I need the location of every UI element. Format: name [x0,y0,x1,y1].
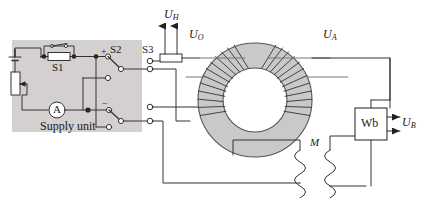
primary-voltage-label: UO [189,28,204,42]
hall-probe-block [160,54,182,62]
s1-resistor [48,53,70,61]
switch-s1-label: S1 [52,62,64,73]
secondary-voltage-label: UA [323,28,337,42]
hall-voltage-label: UH [164,8,179,22]
s2-terminal-upper [105,75,110,80]
ammeter-label: A [53,104,61,115]
terminal-block-label: S3 [142,44,154,55]
coil-m-left [295,150,306,198]
s1-node-left [42,54,47,59]
s2-plus-terminal-label: + [101,47,107,57]
s3-terminal-1 [147,58,153,64]
mutual-inductor-label: M [310,137,319,148]
s3-terminal-2 [147,66,153,72]
supply-unit-label: Supply unit [40,120,96,132]
s1-switch-contact [64,44,67,47]
coil-m-right [325,150,336,198]
toroid-inner [223,68,287,132]
switch-s2-label: S2 [110,44,122,55]
mutual-inductor [295,150,336,198]
s2-minus-terminal-label: − [102,99,108,109]
s3-terminal-3 [147,104,153,110]
s2-contact-lower [118,118,123,123]
circuit-diagram-figure: UH UO UA UB S3 S1 S2 + − A Supply unit M… [0,0,423,198]
flux-voltage-label: UB [402,116,416,130]
wire-s3-2-to-core [153,69,190,121]
s2-terminal-lower [106,124,111,129]
s3-terminal-4 [147,118,153,124]
circuit-schematic-canvas [0,0,423,198]
fluxmeter-label: Wb [361,117,378,129]
s2-contact-upper [118,66,123,71]
potentiometer-body [11,72,20,95]
